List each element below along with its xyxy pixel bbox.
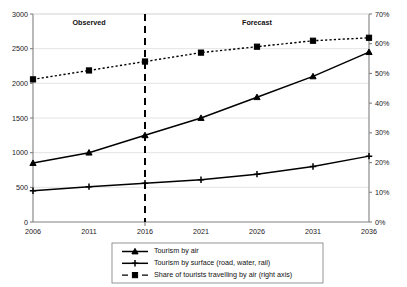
marker-plus [366,153,372,159]
y-axis-tick-label: 3000 [12,10,28,19]
marker-plus [254,171,260,177]
series-0 [30,49,372,165]
marker-square [86,68,91,73]
series-line-2 [33,38,369,80]
annotation-observed: Observed [72,18,105,27]
marker-plus [198,177,204,183]
y2-axis-tick-label: 40% [375,99,390,108]
y2-axis-tick-label: 30% [375,128,390,137]
x-axis-tick-label: 2036 [361,227,377,236]
marker-square [198,50,203,55]
marker-plus [30,188,36,194]
marker-square [310,38,315,43]
x-axis-tick-label: 2011 [81,227,96,236]
x-axis-tick-label: 2016 [137,227,153,236]
marker-square [30,77,35,82]
series-line-1 [33,156,369,191]
y2-axis-tick-label: 0% [375,218,386,227]
marker-plus [86,183,92,189]
series-line-0 [33,52,369,163]
y2-axis-tick-label: 50% [375,69,390,78]
y-axis-tick-label: 2000 [12,79,28,88]
x-axis-tick-label: 2031 [305,227,321,236]
annotation-forecast: Forecast [242,18,273,27]
legend-label-0: Tourism by air [154,246,199,255]
legend-label-2: Share of tourists travelling by air (rig… [154,270,292,279]
y-axis-tick-label: 1000 [12,148,28,157]
marker-plus [310,163,316,169]
y2-axis-tick-label: 70% [375,10,390,19]
y2-axis-tick-label: 10% [375,188,390,197]
series-2 [30,35,371,82]
tourism-forecast-chart: 0500100015002000250030000%10%20%30%40%50… [0,0,407,287]
x-axis-tick-label: 2026 [249,227,265,236]
y2-axis-tick-label: 20% [375,158,390,167]
y-axis-tick-label: 2500 [12,44,28,53]
y2-axis-tick-label: 60% [375,39,390,48]
marker-square [142,59,147,64]
chart-legend: Tourism by airTourism by surface (road, … [112,243,323,283]
marker-square [132,273,137,278]
marker-square [366,35,371,40]
marker-triangle [366,49,372,55]
series-1 [30,153,372,194]
x-axis-tick-label: 2021 [193,227,209,236]
x-axis-tick-label: 2006 [25,227,41,236]
legend-label-1: Tourism by surface (road, water, rail) [154,258,270,267]
chart-canvas: 0500100015002000250030000%10%20%30%40%50… [0,0,407,287]
y-axis-tick-label: 1500 [12,114,28,123]
y-axis-tick-label: 0 [24,218,28,227]
marker-plus [142,180,148,186]
marker-square [254,44,259,49]
y-axis-tick-label: 500 [16,183,28,192]
